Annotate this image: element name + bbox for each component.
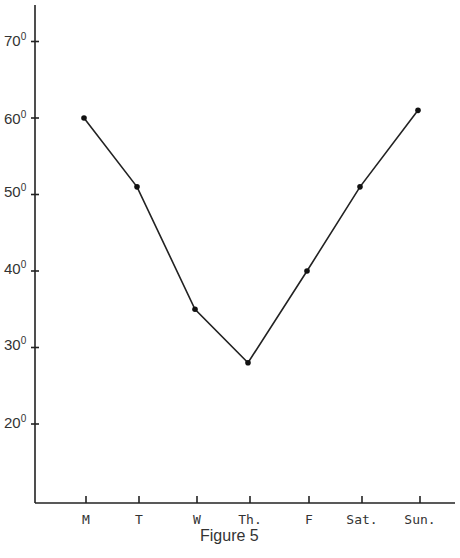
x-tick-label-th: Th. [238,512,261,527]
y-tick-label-20: 200 [4,413,26,431]
data-point [415,108,421,114]
y-tick-label-60: 600 [4,109,26,127]
x-tick-label-w: W [193,512,201,527]
x-tick-label-t: T [135,512,143,527]
line-chart [0,0,460,558]
x-tick-label-m: M [82,512,90,527]
x-axis [35,496,455,503]
y-tick-label-50: 500 [4,182,26,200]
y-axis [31,5,39,503]
data-point [134,184,140,190]
data-point [192,306,198,312]
x-tick-label-f: F [305,512,313,527]
x-tick-label-sat: Sat. [346,512,377,527]
figure-caption: Figure 5 [200,527,259,545]
x-tick-label-sun: Sun. [404,512,435,527]
y-tick-label-70: 700 [4,31,26,49]
data-point [81,115,87,121]
y-tick-label-40: 400 [4,259,26,277]
y-tick-label-30: 300 [4,335,26,353]
data-line [84,110,418,362]
data-point [357,184,363,190]
data-point [245,360,251,366]
data-point [304,268,310,274]
data-points [81,108,421,366]
